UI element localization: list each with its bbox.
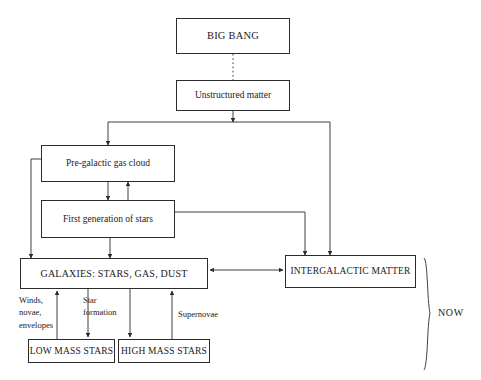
node-high-mass-stars-label: HIGH MASS STARS (121, 346, 207, 356)
edge-firstgen-to-intergalactic (175, 212, 305, 255)
node-high-mass-stars[interactable]: HIGH MASS STARS (118, 339, 210, 363)
node-intergalactic-matter-label: INTERGALACTIC MATTER (290, 266, 410, 276)
node-big-bang-label: BIG BANG (207, 30, 259, 42)
node-big-bang[interactable]: BIG BANG (176, 18, 290, 54)
edge-label-supernovae: Supernovae (178, 308, 218, 320)
node-galaxies-label: GALAXIES: STARS, GAS, DUST (41, 268, 188, 279)
edge-label-star-formation: Star formation (83, 294, 117, 319)
flowchart-canvas: BIG BANG Unstructured matter Pre-galacti… (0, 0, 481, 380)
node-first-generation-of-stars-label: First generation of stars (63, 214, 153, 224)
node-first-generation-of-stars[interactable]: First generation of stars (41, 200, 175, 238)
node-low-mass-stars[interactable]: LOW MASS STARS (28, 339, 115, 363)
now-annotation-label: NOW (438, 307, 464, 318)
now-brace (424, 258, 430, 370)
node-pre-galactic-gas-cloud[interactable]: Pre-galactic gas cloud (41, 145, 175, 182)
edge-label-winds-novae-envelopes: Winds, novae, envelopes (19, 294, 53, 331)
node-pre-galactic-gas-cloud-label: Pre-galactic gas cloud (66, 158, 150, 168)
node-galaxies[interactable]: GALAXIES: STARS, GAS, DUST (20, 258, 208, 289)
node-unstructured-matter[interactable]: Unstructured matter (176, 80, 290, 111)
edge-pregalactic-to-galaxies (31, 159, 41, 258)
node-low-mass-stars-label: LOW MASS STARS (30, 346, 114, 356)
node-unstructured-matter-label: Unstructured matter (195, 90, 271, 100)
connector-layer (0, 0, 481, 380)
node-intergalactic-matter[interactable]: INTERGALACTIC MATTER (285, 255, 416, 288)
